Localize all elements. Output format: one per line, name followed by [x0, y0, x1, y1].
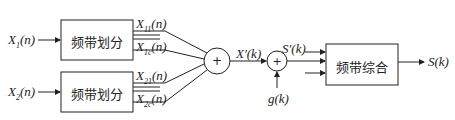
band-x11-label: X11(n)	[136, 17, 167, 34]
band-x1c-label: X1c(n)	[136, 40, 167, 57]
split-block-2-label: 频带划分	[61, 84, 133, 103]
sum1-output-label: X′(k)	[236, 47, 261, 60]
noise-input-label: g(k)	[268, 92, 289, 105]
band-x21-label: X21(n)	[136, 69, 167, 86]
sum2-plus: +	[272, 55, 281, 68]
output-label: S(k)	[428, 55, 449, 68]
input-x1-label: X1(n)	[8, 33, 35, 50]
split-block-1-label: 频带划分	[61, 32, 133, 51]
synthesis-block-label: 频带综合	[326, 57, 398, 76]
sum2-output-label: S′(k)	[282, 42, 306, 55]
band-x2c-label: X2c(n)	[136, 92, 167, 109]
sum1-plus: +	[212, 54, 222, 68]
input-x2-label: X2(n)	[8, 85, 35, 102]
